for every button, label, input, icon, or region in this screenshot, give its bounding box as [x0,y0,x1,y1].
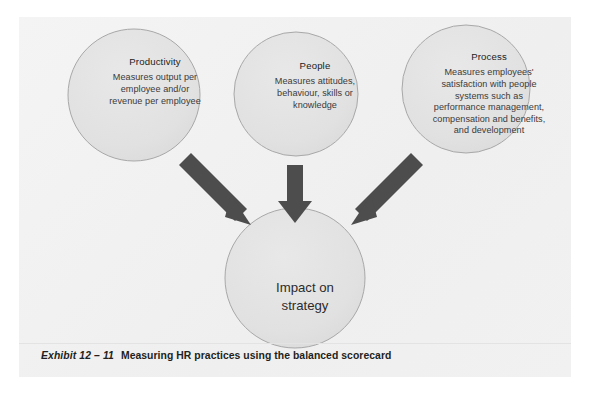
arrow-process-to-impact [351,153,423,225]
exhibit-figure: Productivity Measures output per employe… [0,0,593,402]
caption-label: Exhibit 12 – 11 [41,350,114,361]
caption-title: Measuring HR practices using the balance… [121,350,391,361]
figure-panel: Productivity Measures output per employe… [19,17,571,377]
diagram-canvas [19,17,571,377]
arrow-productivity-to-impact [179,153,251,225]
node-circle-people [234,32,358,156]
node-circle-productivity [68,29,200,161]
node-circle-impact [225,208,365,348]
figure-caption: Exhibit 12 – 11Measuring HR practices us… [41,350,391,361]
node-circle-process [402,25,530,153]
caption-divider [19,343,571,344]
